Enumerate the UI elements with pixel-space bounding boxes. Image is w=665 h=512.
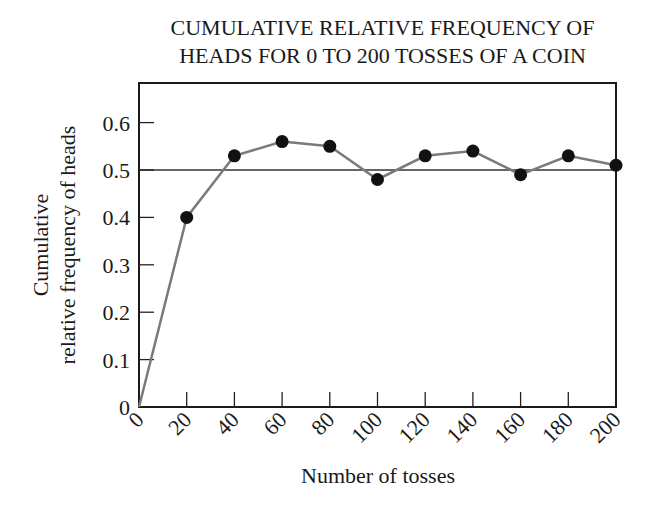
x-tick-label: 20 xyxy=(163,407,196,440)
data-point-marker xyxy=(419,149,432,162)
data-point-marker xyxy=(466,145,479,158)
line-chart: 00.10.20.30.40.50.6020406080100120140160… xyxy=(0,0,665,512)
plot-frame xyxy=(139,83,616,407)
data-point-marker xyxy=(276,135,289,148)
data-point-marker xyxy=(228,149,241,162)
x-tick-label: 60 xyxy=(258,407,291,440)
y-axis-label-line-2: relative frequency of heads xyxy=(55,126,80,365)
x-tick-label: 160 xyxy=(489,407,530,448)
x-tick-label: 0 xyxy=(123,407,148,432)
x-tick-label: 40 xyxy=(211,407,244,440)
x-tick-label: 100 xyxy=(346,407,387,448)
x-tick-label: 140 xyxy=(441,407,482,448)
y-tick-label: 0.2 xyxy=(103,300,131,325)
x-tick-label: 200 xyxy=(585,407,626,448)
y-tick-label: 0.1 xyxy=(103,348,131,373)
data-point-marker xyxy=(610,159,623,172)
y-axis-label-line-1: Cumulative xyxy=(28,194,53,297)
data-point-marker xyxy=(562,149,575,162)
x-axis-label: Number of tosses xyxy=(301,463,455,488)
x-tick-label: 120 xyxy=(394,407,435,448)
data-point-marker xyxy=(514,168,527,181)
x-tick-label: 180 xyxy=(537,407,578,448)
data-point-marker xyxy=(180,211,193,224)
y-tick-label: 0.6 xyxy=(103,111,131,136)
data-point-marker xyxy=(323,140,336,153)
data-point-marker xyxy=(371,173,384,186)
y-tick-label: 0.5 xyxy=(103,158,131,183)
y-tick-label: 0.4 xyxy=(103,205,131,230)
y-tick-label: 0.3 xyxy=(103,253,131,278)
x-tick-label: 80 xyxy=(306,407,339,440)
